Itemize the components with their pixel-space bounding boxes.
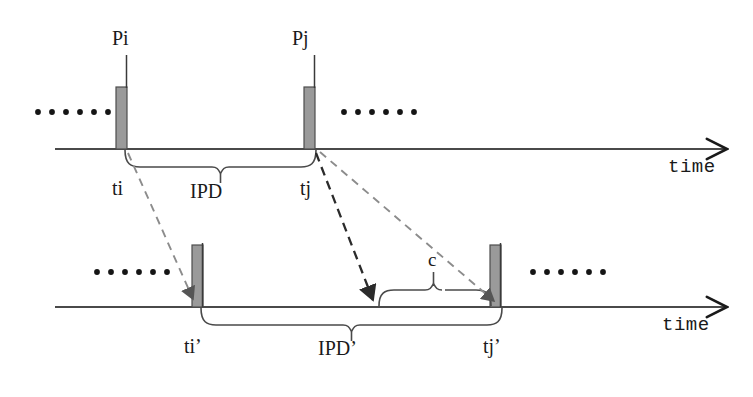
timeline-watermarked [55,243,725,341]
tick-label-ti-prime: ti’ [184,336,202,356]
brace-offset-c [379,272,491,306]
pulse-label-pi: Pi [112,28,129,48]
brace-label-ipd-prime: IPD’ [318,338,357,358]
pulse-pi-prime [192,243,203,307]
mapping-arrow-tj-to-offset-start [316,153,373,300]
ellipsis-left-original [35,109,111,115]
brace-label-c: c [428,250,436,269]
brace-ipd [125,150,316,183]
mapping-arrow-tj-to-tj-prime [320,152,494,301]
tick-label-tj: tj [300,178,311,198]
pulse-pi [116,55,127,149]
pulse-pj-prime [490,243,501,307]
tick-label-ti: ti [112,178,123,198]
brace-label-ipd: IPD [190,181,222,201]
pulse-label-pj: Pj [292,28,309,48]
ellipsis-right-original [341,109,417,115]
tick-label-tj-prime: tj’ [483,336,501,356]
mapping-arrow-ti-to-ti-prime [128,153,193,299]
ellipsis-left-watermarked [94,269,170,275]
ellipsis-right-watermarked [530,269,606,275]
pulse-pj [304,55,315,149]
axis-label-time-top: time [668,158,716,177]
figure-canvas: Pi Pj ti tj IPD time ti’ tj’ IPD’ c time [0,0,753,397]
axis-label-time-bottom: time [662,316,710,335]
timeline-original [35,55,725,183]
mapping-arrows [128,152,494,301]
